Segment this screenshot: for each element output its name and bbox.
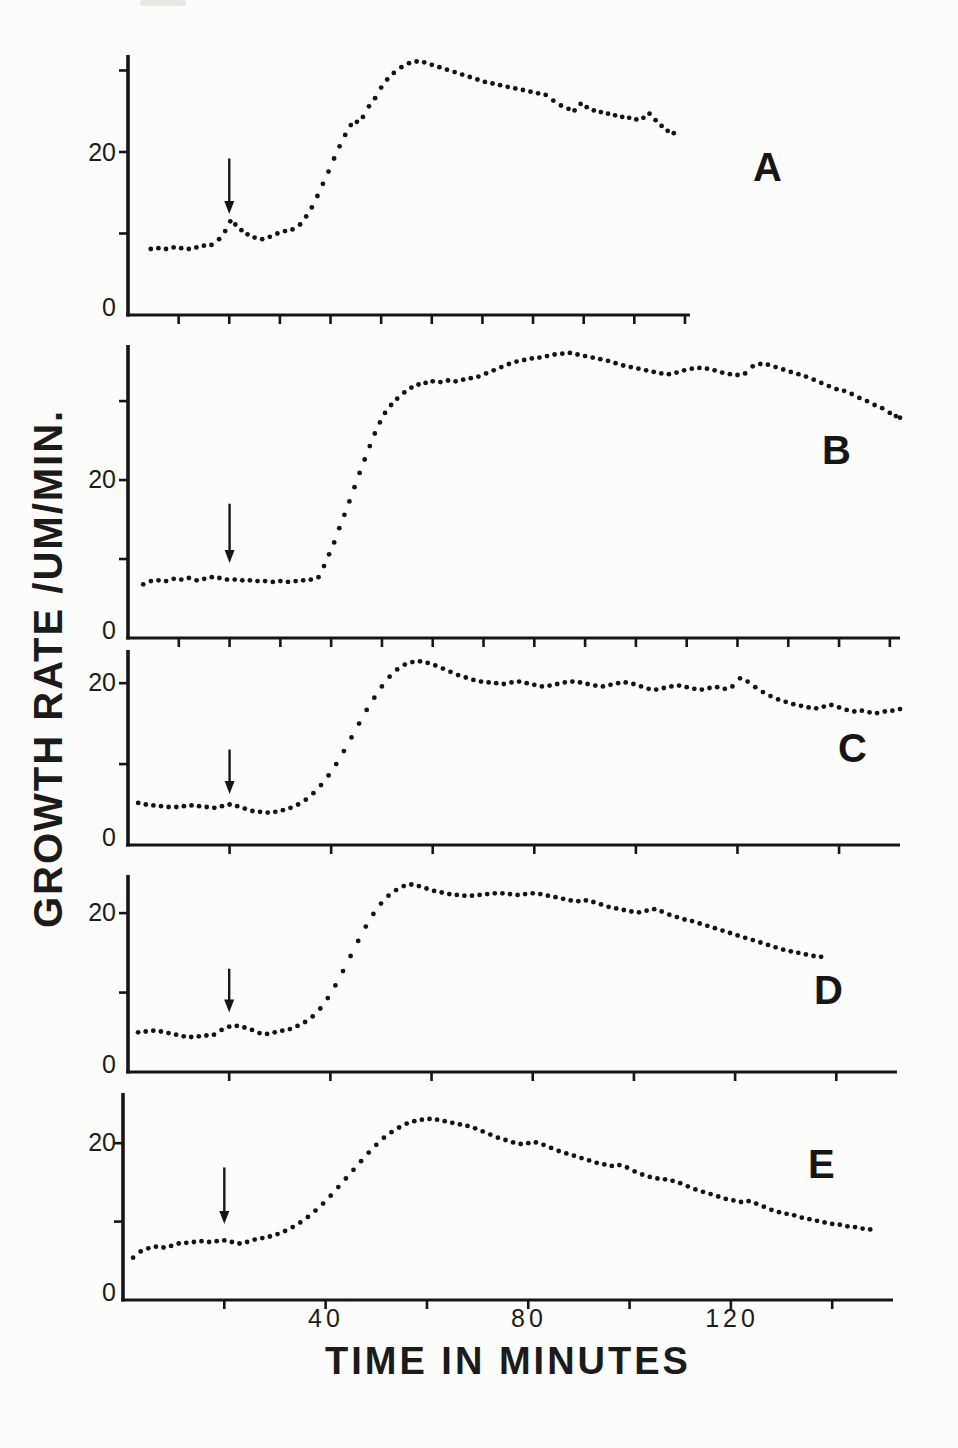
- panel-e-plot: [114, 1093, 893, 1309]
- x-axis-title: TIME IN MINUTES: [258, 1340, 758, 1383]
- x-tick-label-80: 80: [484, 1306, 574, 1331]
- y-tick-label-A-20: 20: [50, 140, 116, 165]
- event-arrow-C: [225, 750, 235, 795]
- y-tick-label-A-0: 0: [50, 295, 116, 320]
- event-arrow-E: [219, 1167, 229, 1223]
- panel-label-A: A: [753, 147, 782, 187]
- panel-d-plot: [119, 875, 897, 1081]
- y-tick-label-D-0: 0: [50, 1052, 116, 1077]
- panel-c-plot: [119, 650, 902, 854]
- y-tick-label-C-20: 20: [50, 670, 116, 695]
- event-arrow-D: [224, 969, 234, 1013]
- y-tick-label-E-0: 0: [50, 1280, 116, 1305]
- y-tick-label-C-0: 0: [50, 825, 116, 850]
- event-arrow-A: [224, 159, 234, 214]
- y-tick-label-D-20: 20: [50, 900, 116, 925]
- y-tick-label-E-20: 20: [50, 1130, 116, 1155]
- panel-label-C: C: [838, 728, 867, 768]
- plot-canvas: [0, 0, 958, 1448]
- panel-b-plot: [119, 345, 902, 647]
- y-tick-label-B-20: 20: [50, 467, 116, 492]
- event-arrow-B: [225, 504, 235, 563]
- y-axis-title: GROWTH RATE /UM/MIN.: [26, 372, 90, 964]
- panel-label-B: B: [822, 430, 851, 470]
- y-tick-label-B-0: 0: [50, 618, 116, 643]
- figure-page: GROWTH RATE /UM/MIN. TIME IN MINUTES A B…: [0, 0, 958, 1448]
- panel-a-plot: [119, 55, 690, 324]
- panel-label-E: E: [808, 1144, 835, 1184]
- x-tick-label-120: 120: [687, 1306, 777, 1331]
- x-tick-label-40: 40: [281, 1306, 371, 1331]
- panel-label-D: D: [814, 970, 843, 1010]
